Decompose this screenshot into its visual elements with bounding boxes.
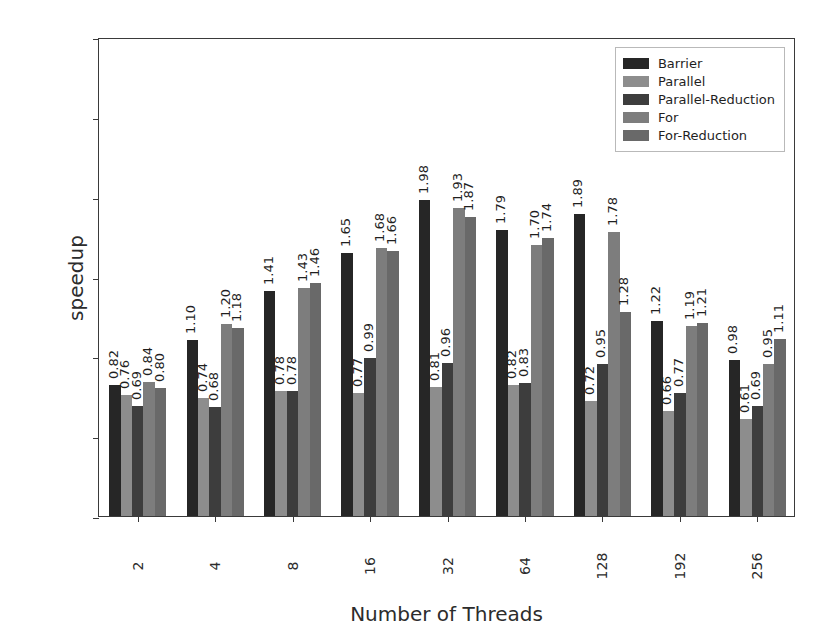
y-tick-mark (93, 518, 99, 519)
bar[interactable]: 1.20 (221, 324, 232, 516)
x-tick-label: 4 (207, 552, 223, 580)
bar[interactable]: 0.69 (132, 406, 143, 516)
x-tick-label: 64 (517, 552, 533, 580)
chart-legend: BarrierParallelParallel-ReductionForFor-… (615, 47, 785, 152)
bar-value-label: 0.99 (361, 323, 376, 352)
bar[interactable]: 1.22 (651, 321, 662, 516)
bar[interactable]: 0.95 (763, 364, 774, 516)
x-tick-mark (215, 516, 216, 522)
y-tick-mark (93, 199, 99, 200)
legend-item[interactable]: For (623, 109, 775, 126)
bar-group: 1.790.820.831.701.74 (496, 39, 553, 516)
bar[interactable]: 1.74 (542, 238, 553, 516)
bar-value-label: 1.89 (570, 179, 585, 208)
bar[interactable]: 1.28 (620, 312, 631, 516)
bar-value-label: 0.78 (284, 357, 299, 386)
bar[interactable]: 0.80 (155, 388, 166, 516)
y-axis-title: speedup (64, 235, 88, 321)
legend-label: Parallel (658, 74, 705, 89)
y-tick-mark (93, 39, 99, 40)
bar-value-label: 0.69 (748, 371, 763, 400)
legend-label: For-Reduction (658, 128, 747, 143)
x-tick-label: 8 (285, 552, 301, 580)
x-tick-mark (757, 516, 758, 522)
bar[interactable]: 1.41 (264, 291, 275, 516)
x-tick-label: 16 (362, 552, 378, 580)
y-tick-mark (93, 358, 99, 359)
bar[interactable]: 0.96 (442, 363, 453, 516)
bar[interactable]: 1.43 (298, 288, 309, 516)
bar-value-label: 1.10 (183, 305, 198, 334)
bar-value-label: 0.96 (438, 328, 453, 357)
bar[interactable]: 1.70 (531, 245, 542, 516)
bar[interactable]: 1.68 (376, 248, 387, 516)
bar[interactable]: 0.76 (121, 395, 132, 516)
bar[interactable]: 0.72 (585, 401, 596, 516)
legend-item[interactable]: Barrier (623, 55, 775, 72)
legend-label: Barrier (658, 56, 702, 71)
plot-inner: 0.00.51.01.52.02.53.0 248163264128192256… (99, 39, 794, 516)
legend-item[interactable]: Parallel-Reduction (623, 91, 775, 108)
x-tick-mark (370, 516, 371, 522)
bar[interactable]: 1.46 (310, 283, 321, 516)
bar[interactable]: 0.99 (364, 358, 375, 516)
bar[interactable]: 0.66 (663, 411, 674, 516)
x-tick-mark (525, 516, 526, 522)
bar-value-label: 0.83 (516, 349, 531, 378)
bar[interactable]: 0.77 (353, 393, 364, 516)
bar-group: 1.650.770.991.681.66 (341, 39, 398, 516)
bar-value-label: 1.21 (694, 288, 709, 317)
bar[interactable]: 0.61 (740, 419, 751, 516)
bar-group: 0.820.760.690.840.80 (109, 39, 166, 516)
bar[interactable]: 0.68 (209, 407, 220, 516)
legend-swatch-icon (623, 130, 649, 141)
bar-value-label: 0.98 (725, 325, 740, 354)
bar[interactable]: 0.82 (508, 385, 519, 516)
bar[interactable]: 0.77 (674, 393, 685, 516)
bar-value-label: 1.87 (461, 182, 476, 211)
x-tick-mark (602, 516, 603, 522)
bar[interactable]: 1.66 (387, 251, 398, 516)
bar-value-label: 1.11 (771, 304, 786, 333)
bar-value-label: 1.28 (616, 277, 631, 306)
bar[interactable]: 0.84 (143, 382, 154, 516)
bar[interactable]: 0.74 (198, 398, 209, 516)
bar[interactable]: 0.78 (275, 391, 286, 516)
bar[interactable]: 1.18 (232, 328, 243, 516)
y-tick-mark (93, 438, 99, 439)
y-tick-mark (93, 119, 99, 120)
x-tick-mark (138, 516, 139, 522)
bar-value-label: 1.78 (605, 197, 620, 226)
bar-value-label: 1.79 (493, 195, 508, 224)
bar-value-label: 1.46 (307, 248, 322, 277)
bar[interactable]: 0.82 (109, 385, 120, 516)
bar[interactable]: 0.95 (597, 364, 608, 516)
bar-value-label: 1.65 (338, 218, 353, 247)
legend-item[interactable]: For-Reduction (623, 127, 775, 144)
bar[interactable]: 1.93 (453, 208, 464, 516)
bar-value-label: 1.66 (384, 216, 399, 245)
bar[interactable]: 1.11 (774, 339, 785, 516)
bar[interactable]: 1.87 (465, 217, 476, 516)
legend-swatch-icon (623, 94, 649, 105)
bar[interactable]: 0.78 (287, 391, 298, 516)
bar-value-label: 0.68 (206, 372, 221, 401)
bar-value-label: 1.18 (229, 293, 244, 322)
bar[interactable]: 1.19 (686, 326, 697, 516)
bar[interactable]: 1.78 (608, 232, 619, 516)
x-axis-title: Number of Threads (350, 602, 543, 625)
bar[interactable]: 0.69 (752, 406, 763, 516)
bar-value-label: 0.77 (671, 358, 686, 387)
bar-value-label: 0.77 (350, 358, 365, 387)
bar[interactable]: 0.98 (729, 360, 740, 516)
bar[interactable]: 0.83 (519, 383, 530, 516)
bar[interactable]: 0.81 (430, 387, 441, 516)
x-tick-mark (293, 516, 294, 522)
plot-area: 0.00.51.01.52.02.53.0 248163264128192256… (98, 38, 795, 517)
bar-group: 1.410.780.781.431.46 (264, 39, 321, 516)
bar[interactable]: 1.21 (697, 323, 708, 516)
legend-item[interactable]: Parallel (623, 73, 775, 90)
bar-group: 1.100.740.681.201.18 (187, 39, 244, 516)
bar-value-label: 1.74 (539, 203, 554, 232)
